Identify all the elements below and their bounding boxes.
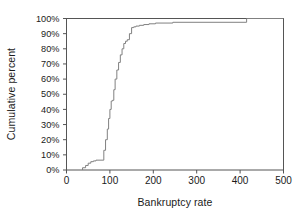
x-tick-label: 0	[64, 175, 70, 186]
y-tick-label: 70%	[41, 59, 59, 69]
y-tick-label: 10%	[41, 150, 59, 160]
x-axis-ticks	[67, 170, 284, 174]
x-tick-label: 200	[145, 175, 162, 186]
y-tick-label: 40%	[41, 105, 59, 115]
y-tick-label: 90%	[41, 29, 59, 39]
x-tick-label: 100	[102, 175, 119, 186]
x-tick-label: 500	[275, 175, 292, 186]
y-tick-label: 50%	[41, 89, 59, 99]
y-tick-label: 100%	[36, 14, 60, 24]
y-axis-title-container: Cumulative percent	[0, 0, 22, 188]
ecdf-step-line	[83, 19, 284, 171]
y-tick-label: 80%	[41, 44, 59, 54]
x-axis-tick-labels: 0100200300400500	[64, 175, 293, 186]
y-tick-label: 0%	[46, 165, 59, 175]
chart-plot-area: 0%10%20%30%40%50%60%70%80%90%100% 010020…	[0, 0, 301, 218]
x-axis-title-container: Bankruptcy rate	[66, 192, 284, 210]
y-axis-title: Cumulative percent	[5, 48, 17, 140]
plot-frame	[67, 19, 284, 171]
y-axis-ticks	[63, 19, 67, 171]
y-tick-label: 30%	[41, 120, 59, 130]
x-tick-label: 300	[188, 175, 205, 186]
y-tick-label: 20%	[41, 135, 59, 145]
chart-figure: Cumulative percent 0%10%20%30%40%50%60%7…	[0, 0, 301, 218]
x-axis-title: Bankruptcy rate	[137, 196, 212, 208]
x-tick-label: 400	[232, 175, 249, 186]
y-axis-tick-labels: 0%10%20%30%40%50%60%70%80%90%100%	[36, 14, 60, 176]
y-tick-label: 60%	[41, 74, 59, 84]
